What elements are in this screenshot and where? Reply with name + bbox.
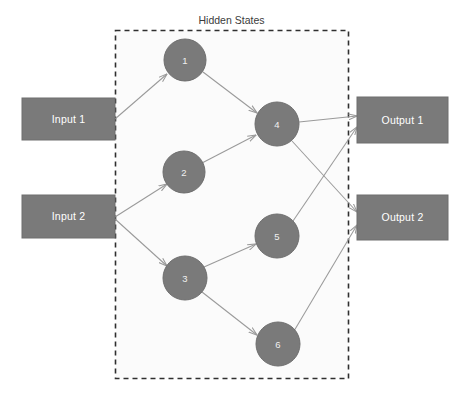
input-node-group: Input 1 Input 2	[22, 98, 115, 238]
hidden-node-5-label: 5	[274, 231, 279, 242]
output-1-node[interactable]: Output 1	[357, 97, 448, 143]
hidden-node-2[interactable]: 2	[163, 151, 205, 193]
input-1-label: Input 1	[52, 113, 86, 125]
output-2-node[interactable]: Output 2	[357, 195, 448, 240]
output-2-label: Output 2	[382, 211, 424, 223]
hidden-states-boundary	[116, 31, 349, 379]
hidden-node-6[interactable]: 6	[256, 322, 300, 366]
output-node-group: Output 1 Output 2	[357, 97, 448, 240]
hidden-node-5[interactable]: 5	[255, 214, 299, 258]
input-2-node[interactable]: Input 2	[22, 195, 115, 238]
hidden-states-group: Hidden States	[116, 14, 349, 379]
output-1-label: Output 1	[382, 114, 424, 126]
hidden-node-3-label: 3	[182, 273, 187, 284]
hidden-node-4[interactable]: 4	[255, 102, 299, 146]
hidden-node-3[interactable]: 3	[163, 256, 207, 300]
input-1-node[interactable]: Input 1	[22, 98, 115, 140]
hidden-states-title: Hidden States	[199, 14, 265, 26]
hidden-node-6-label: 6	[275, 339, 280, 350]
hidden-node-2-label: 2	[181, 167, 186, 178]
diagram-canvas: Hidden States Input 1 Input 2 Output 1 O	[0, 0, 471, 403]
hidden-node-1-label: 1	[182, 55, 187, 66]
hidden-node-4-label: 4	[274, 119, 279, 130]
neural-network-diagram: Hidden States Input 1 Input 2 Output 1 O	[0, 0, 471, 403]
hidden-node-1[interactable]: 1	[164, 39, 206, 81]
input-2-label: Input 2	[52, 210, 86, 222]
